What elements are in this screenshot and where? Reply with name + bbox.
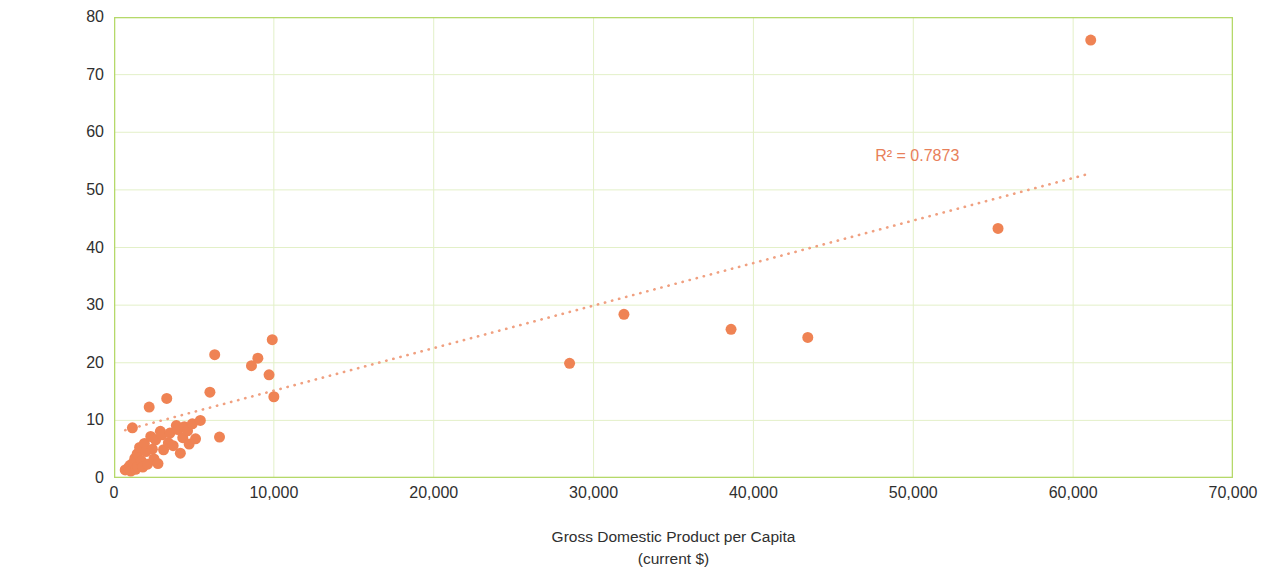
data-point (564, 358, 575, 369)
data-point (252, 353, 263, 364)
data-point (268, 391, 279, 402)
x-tick-label: 10,000 (249, 484, 298, 502)
data-point (127, 422, 138, 433)
data-point (204, 387, 215, 398)
x-tick-label: 0 (110, 484, 119, 502)
data-point (618, 309, 629, 320)
x-axis-tick-labels: 010,00020,00030,00040,00050,00060,00070,… (0, 484, 1262, 508)
x-tick-label: 60,000 (1049, 484, 1098, 502)
x-tick-label: 20,000 (409, 484, 458, 502)
x-axis-title-line2: (current $) (114, 548, 1233, 568)
x-tick-label: 30,000 (569, 484, 618, 502)
data-point (267, 334, 278, 345)
scatter-chart-figure: Material Footprint per Capita (t) 010203… (0, 0, 1262, 568)
r-squared-annotation: R² = 0.7873 (875, 147, 959, 165)
plot-area: R² = 0.7873 (114, 17, 1233, 478)
data-point (152, 458, 163, 469)
x-axis-title: Gross Domestic Product per Capita (curre… (114, 526, 1233, 568)
y-tick-label: 20 (58, 354, 104, 372)
y-tick-label: 10 (58, 411, 104, 429)
data-point (144, 402, 155, 413)
data-point (993, 223, 1004, 234)
trendline (125, 174, 1089, 430)
y-tick-label: 80 (58, 8, 104, 26)
y-tick-label: 60 (58, 123, 104, 141)
data-point (190, 433, 201, 444)
x-tick-label: 40,000 (729, 484, 778, 502)
y-tick-label: 50 (58, 181, 104, 199)
data-point (802, 332, 813, 343)
y-tick-label: 70 (58, 66, 104, 84)
data-point (175, 448, 186, 459)
data-point (209, 349, 220, 360)
x-tick-label: 50,000 (889, 484, 938, 502)
y-tick-label: 40 (58, 239, 104, 257)
x-tick-label: 70,000 (1209, 484, 1258, 502)
x-axis-title-line1: Gross Domestic Product per Capita (552, 528, 796, 545)
data-point (726, 324, 737, 335)
plot-svg (114, 17, 1233, 478)
data-point (195, 415, 206, 426)
data-point (214, 432, 225, 443)
data-point (161, 393, 172, 404)
data-point (264, 369, 275, 380)
y-tick-label: 30 (58, 296, 104, 314)
y-axis-tick-labels: 01020304050607080 (52, 0, 104, 568)
data-point (1085, 35, 1096, 46)
